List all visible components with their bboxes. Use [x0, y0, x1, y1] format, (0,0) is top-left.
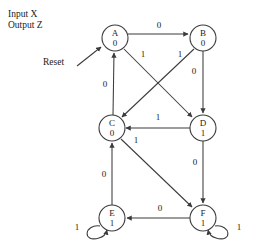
state-name-f: F — [200, 208, 205, 218]
edge-c-to-f — [121, 139, 192, 207]
edge-label-b-to-d: 0 — [192, 66, 197, 76]
state-node-a[interactable]: A 0 — [102, 25, 128, 51]
edge-label-a-to-b: 0 — [157, 20, 162, 30]
state-name-c: C — [109, 118, 115, 128]
state-diagram-figure: Input X Output Z Reset 0 1 1 0 0 1 1 — [0, 0, 254, 249]
state-name-e: E — [109, 208, 115, 218]
state-name-a: A — [112, 28, 119, 38]
edge-b-to-c — [122, 49, 194, 117]
reset-arrow — [77, 47, 101, 66]
state-output-a: 0 — [113, 38, 118, 48]
state-output-c: 0 — [110, 128, 115, 138]
state-name-b: B — [200, 28, 206, 38]
state-node-b[interactable]: B 0 — [190, 25, 216, 51]
state-node-e[interactable]: E 1 — [99, 205, 125, 231]
state-node-f[interactable]: F 1 — [190, 205, 216, 231]
state-node-c[interactable]: C 0 — [99, 115, 125, 141]
state-output-d: 1 — [201, 128, 206, 138]
edge-label-e-self-loop: 1 — [75, 222, 80, 232]
state-node-d[interactable]: D 1 — [190, 115, 216, 141]
edge-label-f-self-loop: 1 — [237, 222, 242, 232]
edge-label-d-to-f: 0 — [193, 157, 198, 167]
edge-label-d-to-c: 1 — [156, 112, 161, 122]
state-diagram-canvas: 0 1 1 0 0 1 1 0 0 1 0 1 — [0, 0, 254, 249]
state-output-e: 1 — [110, 218, 115, 228]
state-output-b: 0 — [201, 38, 206, 48]
edge-c-to-a — [113, 53, 114, 115]
edge-label-c-to-a: 0 — [103, 79, 108, 89]
edge-label-c-to-f: 1 — [134, 135, 139, 145]
state-output-f: 1 — [201, 218, 206, 228]
edge-label-e-to-c: 0 — [102, 169, 107, 179]
edge-label-f-to-e: 0 — [158, 203, 163, 213]
edge-label-b-to-c: 1 — [178, 49, 183, 59]
edge-label-a-to-d: 1 — [141, 49, 146, 59]
state-name-d: D — [200, 118, 207, 128]
